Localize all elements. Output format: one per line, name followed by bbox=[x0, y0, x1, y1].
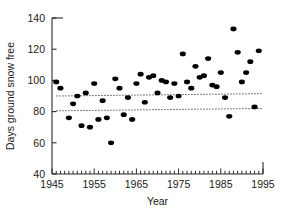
data-point bbox=[121, 112, 127, 117]
data-point bbox=[138, 72, 144, 77]
x-tick-label: 1965 bbox=[125, 178, 149, 190]
x-tick-label: 1995 bbox=[251, 178, 275, 190]
y-tick-label: 80 bbox=[33, 105, 45, 117]
data-point bbox=[184, 80, 190, 85]
data-point bbox=[214, 84, 220, 89]
y-tick-label: 120 bbox=[27, 43, 45, 55]
data-point bbox=[125, 95, 131, 100]
data-point bbox=[116, 86, 122, 91]
y-tick-label: 140 bbox=[27, 12, 45, 24]
data-point bbox=[188, 86, 194, 91]
data-point bbox=[70, 101, 76, 106]
data-point bbox=[171, 81, 177, 86]
data-point bbox=[218, 70, 224, 75]
y-tick-label: 100 bbox=[27, 74, 45, 86]
data-point bbox=[201, 73, 207, 78]
x-tick-label: 1985 bbox=[209, 178, 233, 190]
x-axis-title: Year bbox=[147, 195, 169, 207]
data-point bbox=[226, 114, 232, 119]
data-point bbox=[176, 94, 182, 99]
data-point bbox=[57, 86, 63, 91]
data-point bbox=[222, 95, 228, 100]
data-point bbox=[163, 80, 169, 85]
data-point bbox=[205, 56, 211, 61]
x-tick-label: 1955 bbox=[83, 178, 107, 190]
data-point bbox=[100, 98, 106, 103]
data-point bbox=[247, 59, 253, 64]
x-tick-label: 1975 bbox=[167, 178, 191, 190]
data-point bbox=[192, 64, 198, 69]
data-point bbox=[142, 100, 148, 105]
data-point bbox=[83, 91, 89, 96]
data-point bbox=[252, 105, 258, 110]
data-point bbox=[230, 27, 236, 32]
data-point bbox=[150, 73, 156, 78]
data-point bbox=[235, 50, 241, 55]
data-point bbox=[108, 140, 114, 145]
data-point bbox=[243, 70, 249, 75]
scatter-plot-figure: 406080100120140194519551965197519851995Y… bbox=[0, 0, 303, 211]
data-point bbox=[154, 91, 160, 96]
lower-dotted-line bbox=[56, 108, 263, 110]
data-point bbox=[87, 125, 93, 130]
data-point bbox=[95, 117, 101, 122]
y-tick-label: 60 bbox=[33, 137, 45, 149]
data-point bbox=[133, 81, 139, 86]
data-point bbox=[74, 94, 80, 99]
data-point bbox=[66, 115, 72, 120]
data-point bbox=[78, 123, 84, 128]
data-point bbox=[129, 117, 135, 122]
data-point bbox=[53, 80, 59, 85]
data-point bbox=[180, 52, 186, 57]
chart-canvas: 406080100120140194519551965197519851995Y… bbox=[0, 0, 303, 211]
data-point bbox=[167, 95, 173, 100]
x-tick-label: 1945 bbox=[40, 178, 64, 190]
data-point bbox=[112, 76, 118, 81]
data-point bbox=[239, 80, 245, 85]
data-point bbox=[104, 115, 110, 120]
data-point bbox=[91, 81, 97, 86]
y-axis-title: Days ground snow free bbox=[4, 42, 16, 150]
data-point bbox=[256, 48, 262, 53]
